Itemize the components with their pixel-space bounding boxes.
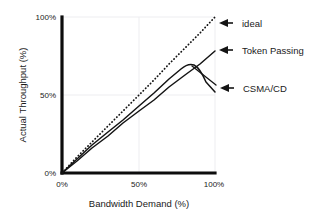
annotation-label-ideal: ideal [242,18,262,29]
y-tick-label-50: 50% [40,91,56,100]
y-axis-title: Actual Throughput (%) [17,48,28,143]
x-tick-label-100: 100% [204,180,224,189]
y-tick-label-100: 100% [36,13,56,22]
y-tick-label-0: 0% [44,169,56,178]
chart-background [0,0,331,220]
x-tick-label-0: 0% [56,180,68,189]
annotation-label-csma-cd: CSMA/CD [243,83,287,94]
x-axis-title: Bandwidth Demand (%) [89,198,189,209]
throughput-vs-demand-chart: 100% 50% 0% 0% 50% 100% Bandwidth Demand… [0,0,331,220]
chart-figure: 100% 50% 0% 0% 50% 100% Bandwidth Demand… [0,0,331,220]
x-tick-label-50: 50% [131,180,147,189]
annotation-label-token-passing: Token Passing [242,45,304,56]
